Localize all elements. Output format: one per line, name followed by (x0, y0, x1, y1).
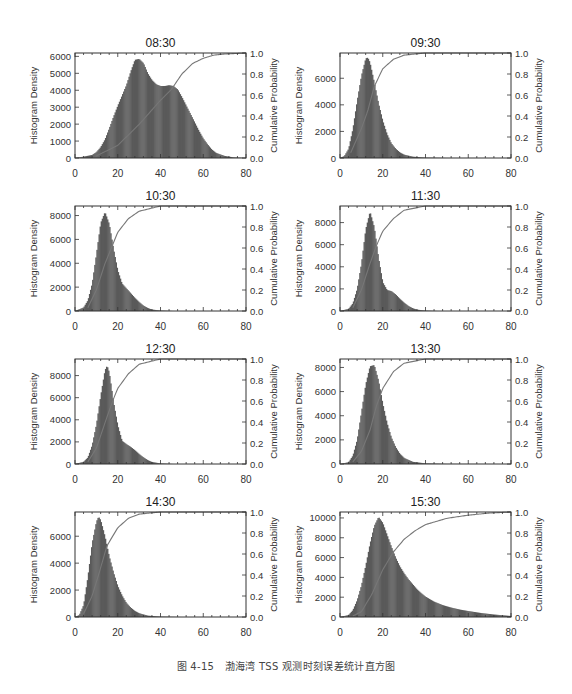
y2-tick-label: 0.0 (250, 459, 263, 470)
y2-tick-label: 0.0 (515, 306, 528, 317)
y-axis-left: 0200040006000800010000 (310, 512, 344, 622)
y-tick-label: 6000 (315, 552, 336, 563)
histogram-bars (75, 518, 182, 617)
y2-tick-label: 1.0 (515, 48, 528, 59)
y2-tick-label: 1.0 (250, 507, 263, 518)
y-axis-right: 0.00.20.40.60.81.0 (507, 201, 528, 317)
histogram-bars (340, 365, 509, 464)
y2-tick-label: 0.0 (250, 153, 263, 164)
y2-tick-label: 0.0 (515, 612, 528, 623)
x-tick-label: 80 (240, 474, 252, 485)
x-tick-label: 60 (463, 321, 475, 332)
y2-axis-label: Cumulative Probability (268, 364, 279, 459)
x-tick-label: 40 (420, 168, 432, 179)
y2-tick-label: 0.8 (250, 375, 263, 386)
y2-tick-label: 0.2 (515, 591, 528, 602)
x-tick-label: 80 (505, 474, 517, 485)
y2-tick-label: 0.4 (515, 570, 528, 581)
y2-tick-label: 0.4 (250, 570, 263, 581)
y-tick-label: 0 (66, 459, 71, 470)
x-tick-label: 20 (112, 474, 124, 485)
y2-tick-label: 0.8 (250, 69, 263, 80)
y2-tick-label: 1.0 (250, 354, 263, 365)
x-tick-label: 60 (198, 627, 210, 638)
y2-tick-label: 0.8 (515, 375, 528, 386)
y2-tick-label: 0.6 (515, 396, 528, 407)
y-tick-label: 4000 (315, 99, 336, 110)
y2-tick-label: 1.0 (515, 354, 528, 365)
y-tick-label: 0 (66, 612, 71, 623)
y-tick-label: 2000 (50, 585, 71, 596)
x-tick-label: 80 (505, 627, 517, 638)
y2-tick-label: 1.0 (515, 201, 528, 212)
y2-tick-label: 0.6 (515, 243, 528, 254)
x-tick-label: 20 (377, 168, 389, 179)
y-tick-label: 4000 (315, 572, 336, 583)
y-axis-label: Histogram Density (28, 372, 39, 450)
x-tick-label: 60 (198, 168, 210, 179)
y-axis-label: Histogram Density (293, 372, 304, 450)
y-axis-right: 0.00.20.40.60.81.0 (507, 507, 528, 623)
chart-panel: 020406080020004000600080000.00.20.40.60.… (293, 189, 544, 332)
x-tick-label: 0 (72, 168, 78, 179)
x-tick-label: 40 (155, 627, 167, 638)
y2-tick-label: 1.0 (250, 201, 263, 212)
chart-panel: 02040608001000200030004000500060000.00.2… (28, 36, 279, 179)
chart-panel: 02040608002000400060000.00.20.40.60.81.0… (28, 495, 279, 638)
y-tick-label: 2000 (50, 436, 71, 447)
y-axis-right: 0.00.20.40.60.81.0 (242, 201, 263, 317)
x-tick-label: 80 (240, 321, 252, 332)
y-axis-label: Histogram Density (293, 525, 304, 603)
x-tick-label: 40 (155, 321, 167, 332)
y-tick-label: 4000 (50, 258, 71, 269)
y-tick-label: 2000 (315, 126, 336, 137)
y2-tick-label: 0.6 (250, 396, 263, 407)
y2-tick-label: 0.8 (515, 222, 528, 233)
x-tick-label: 20 (377, 321, 389, 332)
y-tick-label: 2000 (50, 119, 71, 130)
chart-title: 08:30 (145, 36, 175, 50)
y-tick-label: 2000 (50, 282, 71, 293)
y2-tick-label: 0.0 (250, 306, 263, 317)
chart-panel: 020406080020004000600080000.00.20.40.60.… (28, 189, 279, 332)
y-tick-label: 6000 (315, 239, 336, 250)
y-tick-label: 0 (331, 153, 336, 164)
x-tick-label: 40 (420, 474, 432, 485)
histogram-figure: 02040608001000200030004000500060000.00.2… (0, 0, 572, 694)
y-tick-label: 6000 (315, 73, 336, 84)
chart-title: 09:30 (410, 36, 440, 50)
chart-panel: 02040608002000400060008000100000.00.20.4… (293, 495, 544, 638)
histogram-bars (340, 213, 439, 311)
y-tick-label: 8000 (50, 210, 71, 221)
x-tick-label: 20 (377, 474, 389, 485)
y-axis-label: Histogram Density (28, 219, 39, 297)
y-tick-label: 4000 (315, 410, 336, 421)
y2-tick-label: 0.8 (515, 69, 528, 80)
y-tick-label: 8000 (315, 362, 336, 373)
x-tick-label: 0 (337, 168, 343, 179)
chart-panel: 020406080020004000600080000.00.20.40.60.… (28, 342, 279, 485)
y-tick-label: 2000 (315, 592, 336, 603)
y-tick-label: 1000 (50, 136, 71, 147)
y2-tick-label: 0.4 (250, 417, 263, 428)
y-tick-label: 0 (66, 153, 71, 164)
y-tick-label: 5000 (50, 68, 71, 79)
y-tick-label: 0 (66, 306, 71, 317)
y2-tick-label: 0.2 (250, 285, 263, 296)
y2-tick-label: 0.0 (250, 612, 263, 623)
x-tick-label: 80 (505, 168, 517, 179)
y-axis-right: 0.00.20.40.60.81.0 (507, 354, 528, 470)
y-tick-label: 6000 (50, 51, 71, 62)
x-tick-label: 20 (377, 627, 389, 638)
chart-title: 15:30 (410, 495, 440, 509)
x-tick-label: 40 (420, 627, 432, 638)
chart-title: 10:30 (145, 189, 175, 203)
y-axis-label: Histogram Density (28, 66, 39, 144)
y2-axis-label: Cumulative Probability (533, 517, 544, 612)
x-tick-label: 20 (112, 321, 124, 332)
histogram-bars (75, 367, 174, 464)
x-tick-label: 0 (72, 321, 78, 332)
y2-axis-label: Cumulative Probability (268, 58, 279, 153)
chart-panel: 02040608002000400060000.00.20.40.60.81.0… (293, 36, 544, 179)
y-tick-label: 4000 (50, 85, 71, 96)
